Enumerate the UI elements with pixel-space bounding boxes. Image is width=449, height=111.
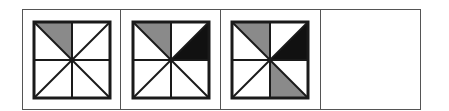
panel-divider-1: [120, 9, 121, 110]
panel-divider-2: [220, 9, 221, 110]
panel-divider-3: [320, 9, 321, 110]
panel-4-blank: [322, 11, 419, 108]
panel-3: [232, 22, 308, 98]
panel-1: [34, 22, 110, 98]
panel-2: [133, 22, 209, 98]
